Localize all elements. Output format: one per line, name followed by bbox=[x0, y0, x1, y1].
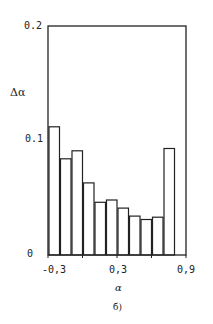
x-axis-label: α bbox=[115, 283, 122, 293]
y-tick-label-mid: 0.1 bbox=[25, 134, 43, 144]
y-axis-label: Δα bbox=[10, 88, 25, 98]
histogram-bar bbox=[49, 127, 60, 255]
histogram-bar bbox=[141, 220, 152, 256]
histogram-bar bbox=[61, 159, 72, 255]
y-tick-label-top: 0.2 bbox=[24, 21, 42, 31]
histogram-bar bbox=[130, 216, 141, 255]
y-tick-label-zero: 0 bbox=[27, 249, 33, 259]
x-tick-label-left: -0,3 bbox=[42, 265, 66, 275]
histogram-bars bbox=[49, 127, 175, 255]
histogram-bar bbox=[95, 202, 106, 255]
x-tick-label-mid: 0,3 bbox=[109, 265, 127, 275]
histogram-plot bbox=[0, 0, 213, 324]
histogram-bar bbox=[107, 200, 118, 255]
panel-label: б) bbox=[113, 302, 122, 312]
histogram-bar bbox=[84, 183, 95, 255]
histogram-bar bbox=[164, 149, 175, 256]
x-tick-label-right: 0,9 bbox=[177, 265, 195, 275]
histogram-bar bbox=[153, 217, 164, 255]
histogram-bar bbox=[72, 151, 83, 255]
histogram-bar bbox=[118, 208, 129, 255]
